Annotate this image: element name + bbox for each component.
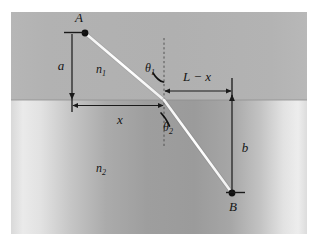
medium-1-region [11,12,307,100]
label-distance-x: x [116,112,123,127]
label-distance-l-minus-x: L − x [182,69,211,84]
label-point-b: B [229,199,237,214]
refraction-diagram: A B a b x L − x n1 n2 θ1 θ2 [0,0,314,242]
label-theta-2-subscript: 2 [169,127,173,136]
diagram-canvas: A B a b x L − x n1 n2 θ1 θ2 [0,0,314,242]
figure-panel [11,12,307,234]
label-index-n1-subscript: 1 [102,69,106,78]
label-distance-b: b [242,140,249,155]
label-point-a: A [74,10,83,25]
medium-2-region [11,100,307,234]
label-distance-a: a [58,58,65,73]
label-theta-1-subscript: 1 [151,68,155,77]
label-index-n2-subscript: 2 [102,168,106,177]
